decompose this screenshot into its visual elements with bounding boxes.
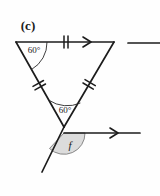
geometry-figure: (c) 60° 60° f [0,0,160,196]
top-left-angle-label: 60° [28,45,41,55]
angle-f-shaded-sector [50,133,86,154]
part-label: (c) [21,18,35,33]
triangle-right-leg [64,42,114,127]
geometry-canvas: (c) 60° 60° f [0,0,160,196]
apex-angle-label: 60° [59,105,72,115]
